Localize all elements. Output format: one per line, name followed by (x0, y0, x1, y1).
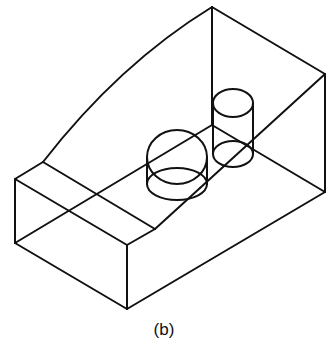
inner-diagonal-right (212, 125, 325, 192)
bottom-right-edge (127, 192, 325, 309)
small-cylinder-top (213, 89, 253, 117)
back-top-edge (43, 162, 155, 229)
apex-right-edge (212, 7, 325, 74)
inner-diagonal-upper (200, 74, 325, 188)
small-cylinder-inner-arc (213, 141, 253, 154)
large-cylinder-top (147, 130, 207, 184)
bottom-left-edge (15, 243, 127, 309)
figure-caption: (b) (0, 320, 328, 340)
front-top-edge (15, 179, 127, 245)
isometric-drawing (0, 0, 328, 320)
left-top-short-edge (15, 162, 43, 179)
curved-top-edge (43, 7, 212, 162)
ramp-edge (155, 188, 200, 229)
step-edge (127, 229, 155, 245)
large-cylinder-bottom (147, 157, 207, 200)
